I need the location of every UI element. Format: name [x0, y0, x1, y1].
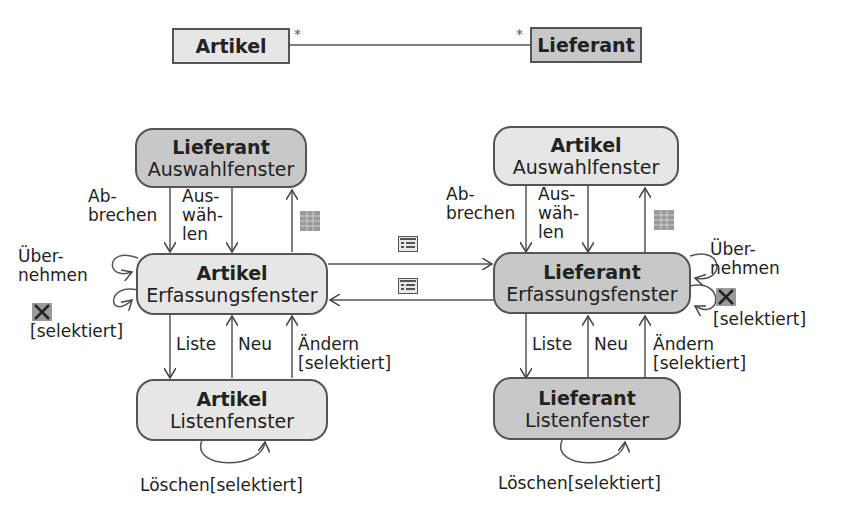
class-artikel-label: Artikel	[195, 35, 266, 57]
class-lieferant-label: Lieferant	[537, 34, 634, 56]
label-auswaehlen-left: Aus- wäh- len	[182, 187, 223, 244]
state-subtitle: Listenfenster	[525, 409, 649, 431]
state-artikel-listenfenster: Artikel Listenfenster	[136, 379, 328, 441]
state-lieferant-listenfenster: Lieferant Listenfenster	[493, 377, 681, 440]
label-liste-right: Liste	[532, 335, 572, 354]
delete-x-icon	[32, 303, 52, 321]
class-lieferant: Lieferant	[530, 27, 642, 63]
delete-x-icon	[716, 288, 736, 306]
state-lieferant-erfassungsfenster: Lieferant Erfassungsfenster	[493, 252, 691, 314]
state-subtitle: Erfassungsfenster	[506, 283, 677, 305]
state-artikel-erfassungsfenster: Artikel Erfassungsfenster	[136, 253, 328, 315]
table-icon	[654, 210, 674, 230]
state-title: Artikel	[550, 134, 621, 156]
state-title: Artikel	[196, 262, 267, 284]
form-icon	[398, 236, 418, 252]
state-subtitle: Listenfenster	[170, 410, 294, 432]
label-aendern-left: Ändern [selektiert]	[298, 335, 391, 373]
state-title: Lieferant	[172, 136, 269, 158]
label-loeschen-left: Löschen[selektiert]	[140, 476, 303, 495]
state-lieferant-auswahlfenster: Lieferant Auswahlfenster	[135, 128, 307, 188]
label-liste-left: Liste	[176, 335, 216, 354]
state-title: Lieferant	[538, 387, 635, 409]
label-abbrechen-right: Ab- brechen	[446, 185, 515, 223]
label-uebernehmen-right: Über- nehmen	[710, 240, 780, 278]
label-neu-left: Neu	[238, 335, 272, 354]
label-selektiert-right: [selektiert]	[713, 310, 806, 329]
label-abbrechen-left: Ab- brechen	[88, 187, 157, 225]
multiplicity-right: *	[516, 26, 523, 42]
state-artikel-auswahlfenster: Artikel Auswahlfenster	[493, 126, 679, 186]
label-uebernehmen-left: Über- nehmen	[18, 247, 88, 285]
form-icon	[398, 278, 418, 294]
state-subtitle: Erfassungsfenster	[146, 284, 317, 306]
state-subtitle: Auswahlfenster	[513, 156, 660, 178]
class-artikel: Artikel	[172, 28, 290, 64]
state-subtitle: Auswahlfenster	[148, 158, 295, 180]
multiplicity-left: *	[294, 26, 301, 42]
label-auswaehlen-right: Aus- wäh- len	[538, 185, 579, 242]
label-aendern-right: Ändern [selektiert]	[653, 335, 746, 373]
label-selektiert-left: [selektiert]	[30, 322, 123, 341]
label-loeschen-right: Löschen[selektiert]	[498, 474, 661, 493]
label-neu-right: Neu	[594, 335, 628, 354]
table-icon	[300, 211, 320, 231]
state-title: Lieferant	[543, 261, 640, 283]
state-title: Artikel	[196, 388, 267, 410]
